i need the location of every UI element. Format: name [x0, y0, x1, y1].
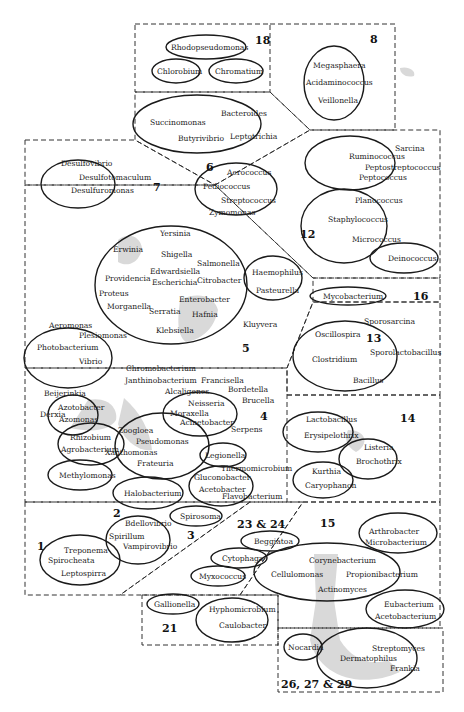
taxon: Nocardia [288, 643, 324, 652]
taxon: Gluconobacter [194, 473, 251, 482]
bacterial-taxonomy-diagram: 18 8 6 7 12 5 16 13 4 14 1 2 3 23 & 24 1… [0, 0, 464, 712]
taxon: Acidaminococcus [305, 78, 373, 87]
taxon: Gallionella [154, 600, 196, 609]
taxon: Kluyvera [243, 320, 278, 329]
taxon: Beggiatoa [254, 537, 293, 546]
taxon: Thermomicrobium [221, 464, 292, 473]
taxon: Aerococcus [226, 168, 271, 177]
taxon: Cytophaga [222, 554, 264, 563]
taxon: Serpens [231, 425, 263, 434]
taxon: Morganella [107, 302, 152, 311]
taxon: Leptospirra [61, 569, 106, 578]
taxon: Dermatophilus [340, 654, 397, 663]
group-label-1: 1 [37, 540, 45, 553]
taxon: Pasteurella [256, 286, 300, 295]
taxon: Bacillus [353, 376, 384, 385]
taxon: Listeria [364, 443, 394, 452]
taxon: Ruminococcus [349, 152, 405, 161]
taxon: Agrobacterium [60, 445, 119, 454]
taxon: Bacteroides [221, 109, 267, 118]
taxon: Haemophilus [252, 268, 303, 277]
taxon: Vampirovibrio [122, 542, 178, 551]
taxon: Lactobacillus [306, 415, 357, 424]
taxon: Edwardsiella [150, 267, 201, 276]
taxon: Veillonella [317, 96, 358, 105]
taxon: Azotobacter [57, 403, 105, 412]
taxon: Pediococcus [203, 182, 250, 191]
taxon: Methylomonas [59, 471, 116, 480]
taxon: Actinomyces [317, 585, 367, 594]
taxon: Caryophanon [305, 481, 357, 490]
group-label-18: 18 [255, 34, 271, 47]
taxon: Salmonella [197, 259, 240, 268]
taxon: Vibrio [78, 357, 103, 366]
taxon: Providencia [105, 274, 151, 283]
taxon: Hyphomicrobium [209, 605, 276, 614]
taxon: Brucella [242, 396, 275, 405]
taxon: Shigella [161, 250, 193, 259]
taxon: Microbacterium [365, 538, 427, 547]
group-label-5: 5 [242, 342, 250, 355]
taxon: Peptostreptococcus [365, 163, 441, 172]
taxon: Spirillum [109, 532, 145, 541]
taxon: Streptomyces [372, 644, 425, 653]
taxon: Peptococcus [359, 173, 407, 182]
taxon: Erysipelothrix [304, 431, 359, 440]
taxon: Streptococcus [221, 196, 276, 205]
group-label-12: 12 [300, 228, 315, 241]
group-label-3: 3 [187, 529, 195, 542]
taxon: Erwinia [113, 245, 143, 254]
taxon: Frateuria [137, 459, 174, 468]
taxon: Butyrivibrio [178, 134, 225, 143]
taxon: Succinomonas [150, 118, 206, 127]
taxon: Brochothrix [356, 457, 402, 466]
taxon: Bdellovibrio [125, 519, 172, 528]
taxon-names: Rhodopseudomonas Chlorobium Chromatium M… [37, 43, 441, 673]
taxon: Chlorobium [157, 67, 202, 76]
taxon: Desulfuromonas [71, 186, 134, 195]
taxon: Spirosoma [180, 512, 221, 521]
taxon: Mycobacterium [323, 292, 383, 301]
taxon: Rhizobium [70, 433, 111, 442]
taxon: Acinetobacter [179, 418, 234, 427]
taxon: Sporosarcina [364, 317, 415, 326]
group-label-4: 4 [260, 410, 268, 423]
taxon: Aeromonas [48, 321, 92, 330]
taxon: Arthrobacter [368, 527, 419, 536]
taxon: Klebsiella [156, 326, 194, 335]
group-label-13: 13 [366, 332, 381, 345]
taxon: Azomonas [58, 415, 98, 424]
taxon: Leptotrichia [230, 132, 278, 141]
taxon: Alcaligenes [164, 387, 209, 396]
taxon: Bordetella [228, 385, 269, 394]
taxon: Plesiomonas [79, 331, 127, 340]
taxon: Escherichia [152, 278, 198, 287]
taxon: Halobacterium [124, 489, 182, 498]
group-label-14: 14 [400, 412, 416, 425]
taxon: Moraxella [170, 409, 209, 418]
group-label-8: 8 [370, 33, 378, 46]
taxon: Corynebacterium [309, 556, 376, 565]
taxon: Kurthia [312, 467, 341, 476]
taxon: Rhodopseudomonas [171, 43, 248, 52]
taxon: Clostridium [312, 355, 357, 364]
taxon: Staphylococcus [328, 215, 388, 224]
taxon: Eubacterium [384, 600, 434, 609]
taxon: Janthinobacterium [124, 376, 197, 385]
taxon: Enterobacter [179, 295, 230, 304]
taxon: Flavobacterium [222, 492, 282, 501]
taxon: Photobacterium [37, 343, 99, 352]
taxon: Planococcus [355, 196, 403, 205]
group-label-23-24: 23 & 24 [237, 518, 286, 531]
taxon: Pseudomonas [136, 437, 189, 446]
taxon: Spirocheata [48, 556, 95, 565]
taxon: Micrococcus [352, 235, 401, 244]
group-label-16: 16 [413, 290, 429, 303]
taxon: Cellulomonas [271, 570, 323, 579]
taxon: Caulobacter [219, 621, 266, 630]
taxon: Megasphaera [313, 61, 366, 70]
taxon: Citrobacter [197, 276, 242, 285]
taxon: Acetobacterium [374, 612, 436, 621]
taxon: Legionella [205, 451, 246, 460]
group-label-6: 6 [206, 161, 214, 174]
